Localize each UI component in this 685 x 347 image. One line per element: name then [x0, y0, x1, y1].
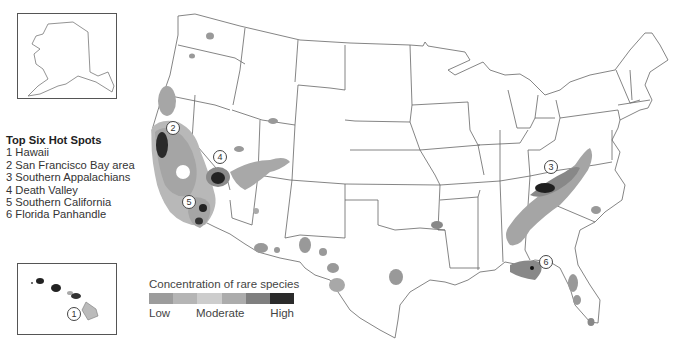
alaska-outline	[18, 14, 116, 98]
legend-title: Concentration of rare species	[149, 278, 294, 290]
hawaii-islands	[18, 264, 116, 334]
hotspot-item: 4 Death Valley	[6, 184, 135, 196]
legend-swatch	[246, 293, 270, 304]
hotspot-marker-4: 4	[213, 150, 227, 164]
legend-low-label: Low	[149, 307, 170, 319]
concentration-legend: Concentration of rare species Low Modera…	[149, 278, 294, 319]
hotspot-item: 5 Southern California	[6, 196, 135, 208]
hotspot-item: 3 Southern Appalachians	[6, 171, 135, 183]
legend-swatch	[149, 293, 173, 304]
legend-swatch	[173, 293, 197, 304]
hotspot-marker-6: 6	[539, 255, 553, 269]
alaska-inset	[17, 13, 117, 99]
hotspot-marker-2: 2	[166, 121, 180, 135]
legend-swatch	[222, 293, 246, 304]
hawaii-inset	[17, 263, 117, 335]
hotspot-marker-5: 5	[182, 195, 196, 209]
legend-swatch	[270, 293, 294, 304]
hotspot-marker-1: 1	[67, 307, 81, 321]
legend-moderate-label: Moderate	[196, 307, 245, 319]
hotspot-marker-3: 3	[544, 160, 558, 174]
hotspot-item: 2 San Francisco Bay area	[6, 159, 135, 171]
hotspot-item: 1 Hawaii	[6, 146, 135, 158]
hotspots-title: Top Six Hot Spots	[6, 134, 135, 146]
legend-color-scale	[149, 293, 294, 304]
hotspot-item: 6 Florida Panhandle	[6, 208, 135, 220]
legend-high-label: High	[270, 307, 294, 319]
legend-swatch	[197, 293, 221, 304]
hotspots-legend: Top Six Hot Spots 1 Hawaii 2 San Francis…	[6, 134, 135, 221]
